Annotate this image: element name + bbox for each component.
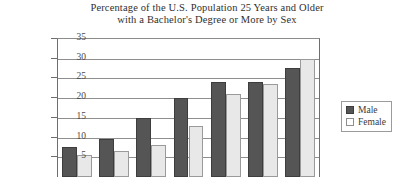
y-axis-tick-label: 10 [46, 131, 86, 141]
chart-title: Percentage of the U.S. Population 25 Yea… [0, 2, 414, 26]
female-swatch-icon [346, 118, 354, 126]
legend-item-male: Male [346, 104, 386, 116]
bar-male-7 [285, 68, 300, 177]
y-axis-tick-mark [51, 156, 57, 157]
bar-female-7 [300, 59, 315, 177]
bar-female-3 [151, 145, 166, 177]
gridline [58, 118, 319, 119]
legend-label-female: Female [358, 117, 386, 127]
y-axis-tick-mark [51, 38, 57, 39]
bar-female-6 [263, 84, 278, 177]
y-axis-tick-mark [51, 77, 57, 78]
y-axis-tick-label: 35 [46, 32, 86, 42]
bar-female-4 [189, 126, 204, 177]
bar-male-3 [136, 118, 151, 177]
bar-male-4 [174, 98, 189, 177]
gridline [58, 98, 319, 99]
y-axis-tick-label: 25 [46, 71, 86, 81]
plot-area [57, 38, 320, 177]
chart-title-line-1: Percentage of the U.S. Population 25 Yea… [0, 2, 414, 14]
legend-item-female: Female [346, 116, 386, 128]
bar-female-2 [114, 151, 129, 177]
y-axis-tick-mark [51, 117, 57, 118]
y-axis-tick-label: 20 [46, 91, 86, 101]
chart-figure: Percentage of the U.S. Population 25 Yea… [0, 0, 414, 177]
male-swatch-icon [346, 106, 354, 114]
bar-male-5 [211, 82, 226, 177]
y-axis-tick-mark [51, 97, 57, 98]
y-axis-tick-label: 30 [46, 52, 86, 62]
y-axis-tick-label: 15 [46, 111, 86, 121]
y-axis-tick-mark [51, 137, 57, 138]
bar-female-5 [226, 94, 241, 177]
bar-male-2 [99, 139, 114, 177]
y-axis-tick-mark [51, 58, 57, 59]
chart-legend: Male Female [341, 101, 392, 132]
bar-male-6 [248, 82, 263, 177]
gridline [58, 59, 319, 60]
gridline [58, 78, 319, 79]
chart-title-line-2: with a Bachelor's Degree or More by Sex [0, 14, 414, 26]
legend-label-male: Male [358, 105, 378, 115]
y-axis-tick-label: 5 [46, 150, 86, 160]
